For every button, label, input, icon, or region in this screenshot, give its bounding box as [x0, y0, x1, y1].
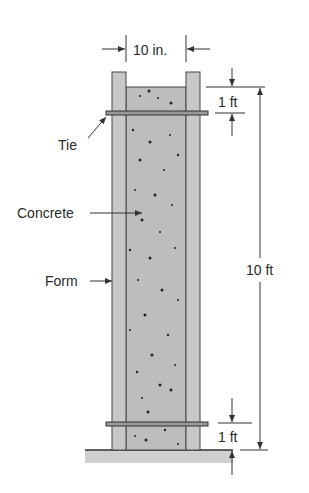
- concrete-label: Concrete: [17, 205, 74, 221]
- tie-bottom: [106, 422, 208, 426]
- form-label: Form: [45, 273, 78, 289]
- form-right: [186, 72, 200, 450]
- concrete-fill: [126, 87, 186, 450]
- ground-slab: [85, 450, 233, 463]
- tie-top: [106, 111, 208, 115]
- tie-label: Tie: [58, 137, 77, 153]
- column-form-diagram: 10 in. 1 ft 10 ft 1 ft Tie Concrete Form: [0, 0, 309, 493]
- top-tie-offset-label: 1 ft: [218, 94, 238, 110]
- height-label: 10 ft: [246, 262, 273, 278]
- bottom-tie-offset-label: 1 ft: [218, 429, 238, 445]
- form-left: [112, 72, 126, 450]
- width-label: 10 in.: [133, 42, 167, 58]
